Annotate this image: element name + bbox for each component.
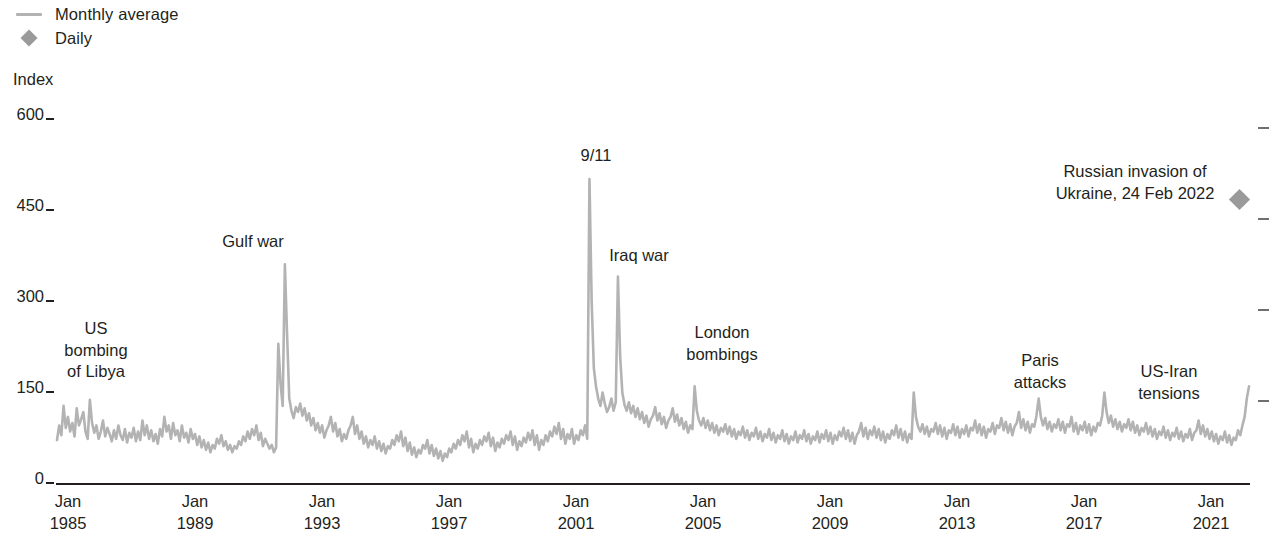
annotation-line: Ukraine, 24 Feb 2022 xyxy=(1040,183,1230,205)
annotation-london-bombings: London bombings xyxy=(652,322,792,365)
x-tick-label-jan-2013: Jan 2013 xyxy=(912,490,1002,534)
x-tick-year: 2001 xyxy=(531,512,621,534)
x-tick-year: 2009 xyxy=(785,512,875,534)
x-tick-month: Jan xyxy=(1166,490,1256,512)
x-tick-label-jan-2005: Jan 2005 xyxy=(658,490,748,534)
x-tick-label-jan-2009: Jan 2009 xyxy=(785,490,875,534)
annotation-russian-invasion: Russian invasion of Ukraine, 24 Feb 2022 xyxy=(1040,161,1230,204)
annotation-nine-eleven: 9/11 xyxy=(556,145,636,167)
annotation-iraq-war: Iraq war xyxy=(579,245,699,267)
annotation-paris-attacks: Paris attacks xyxy=(980,350,1100,393)
x-tick-month: Jan xyxy=(531,490,621,512)
x-tick-month: Jan xyxy=(912,490,1002,512)
x-tick-label-jan-2021: Jan 2021 xyxy=(1166,490,1256,534)
annotation-line: London xyxy=(652,322,792,344)
x-tick-month: Jan xyxy=(658,490,748,512)
annotation-line: of Libya xyxy=(46,361,146,383)
annotation-line: 9/11 xyxy=(556,145,636,167)
x-tick-label-jan-2017: Jan 2017 xyxy=(1039,490,1129,534)
monthly-average-line xyxy=(57,179,1249,461)
x-tick-year: 1989 xyxy=(150,512,240,534)
x-tick-label-jan-2001: Jan 2001 xyxy=(531,490,621,534)
x-tick-year: 1997 xyxy=(404,512,494,534)
annotation-line: US xyxy=(46,318,146,340)
annotation-us-iran-tensions: US-Iran tensions xyxy=(1109,361,1229,404)
x-tick-label-jan-1985: Jan 1985 xyxy=(23,490,113,534)
x-tick-year: 2021 xyxy=(1166,512,1256,534)
x-tick-month: Jan xyxy=(150,490,240,512)
x-tick-year: 1993 xyxy=(277,512,367,534)
annotation-us-bombing-of-libya: US bombing of Libya xyxy=(46,318,146,383)
annotation-line: bombing xyxy=(46,340,146,362)
x-tick-year: 2017 xyxy=(1039,512,1129,534)
x-tick-year: 1985 xyxy=(23,512,113,534)
annotation-line: attacks xyxy=(980,372,1100,394)
plot-area xyxy=(0,0,1271,556)
x-tick-label-jan-1989: Jan 1989 xyxy=(150,490,240,534)
annotation-line: Paris xyxy=(980,350,1100,372)
x-tick-label-jan-1993: Jan 1993 xyxy=(277,490,367,534)
x-tick-year: 2005 xyxy=(658,512,748,534)
annotation-gulf-war: Gulf war xyxy=(193,231,313,253)
x-tick-month: Jan xyxy=(23,490,113,512)
x-tick-month: Jan xyxy=(277,490,367,512)
annotation-line: bombings xyxy=(652,344,792,366)
annotation-line: Russian invasion of xyxy=(1040,161,1230,183)
x-tick-month: Jan xyxy=(1039,490,1129,512)
geopolitical-risk-chart: Monthly average Daily Index 600 450 300 … xyxy=(0,0,1271,556)
annotation-line: Gulf war xyxy=(193,231,313,253)
x-tick-month: Jan xyxy=(404,490,494,512)
x-tick-month: Jan xyxy=(785,490,875,512)
x-tick-label-jan-1997: Jan 1997 xyxy=(404,490,494,534)
annotation-line: tensions xyxy=(1109,383,1229,405)
annotation-line: US-Iran xyxy=(1109,361,1229,383)
x-tick-year: 2013 xyxy=(912,512,1002,534)
annotation-line: Iraq war xyxy=(579,245,699,267)
